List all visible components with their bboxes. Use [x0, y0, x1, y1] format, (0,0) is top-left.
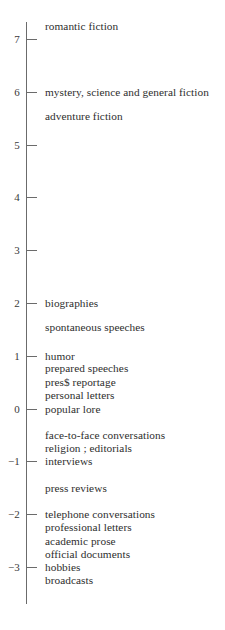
axis-tick-mark — [27, 145, 37, 146]
axis-tick-mark — [27, 197, 37, 198]
genre-label: pres$ reportage — [45, 377, 116, 388]
genre-label: humor — [45, 351, 75, 362]
genre-label: religion ; editorials — [45, 443, 132, 454]
axis-tick-label: 2 — [0, 298, 20, 309]
genre-label: romantic fiction — [45, 21, 118, 32]
axis-tick-label: −2 — [0, 509, 20, 520]
genre-label: prepared speeches — [45, 363, 128, 374]
axis-tick-mark — [27, 567, 37, 568]
genre-label: biographies — [45, 298, 98, 309]
genre-label: adventure fiction — [45, 111, 123, 122]
genre-label: professional letters — [45, 522, 132, 533]
genre-label: popular lore — [45, 404, 101, 415]
vertical-axis-line — [26, 22, 27, 604]
genre-label: personal letters — [45, 390, 115, 401]
axis-tick-label: −3 — [0, 562, 20, 573]
genre-label: official documents — [45, 549, 130, 560]
genre-label: hobbies — [45, 562, 81, 573]
genre-label: spontaneous speeches — [45, 322, 145, 333]
axis-tick-label: −1 — [0, 456, 20, 467]
axis-tick-label: 0 — [0, 404, 20, 415]
axis-tick-mark — [27, 92, 37, 93]
axis-tick-mark — [27, 461, 37, 462]
axis-tick-mark — [27, 409, 37, 410]
axis-tick-mark — [27, 39, 37, 40]
axis-tick-label: 7 — [0, 34, 20, 45]
axis-tick-mark — [27, 514, 37, 515]
genre-label: interviews — [45, 456, 93, 467]
axis-tick-mark — [27, 356, 37, 357]
genre-dimension-chart: 76543210−1−2−3 romantic fictionmystery, … — [0, 0, 225, 630]
genre-label: mystery, science and general fiction — [45, 87, 209, 98]
genre-label: academic prose — [45, 536, 116, 547]
genre-label: telephone conversations — [45, 509, 155, 520]
axis-tick-label: 6 — [0, 87, 20, 98]
axis-tick-label: 3 — [0, 245, 20, 256]
axis-tick-label: 1 — [0, 351, 20, 362]
axis-tick-label: 5 — [0, 140, 20, 151]
genre-label: broadcasts — [45, 575, 93, 586]
genre-label: press reviews — [45, 483, 107, 494]
axis-tick-label: 4 — [0, 192, 20, 203]
genre-label: face-to-face conversations — [45, 430, 165, 441]
axis-tick-mark — [27, 250, 37, 251]
axis-tick-mark — [27, 303, 37, 304]
